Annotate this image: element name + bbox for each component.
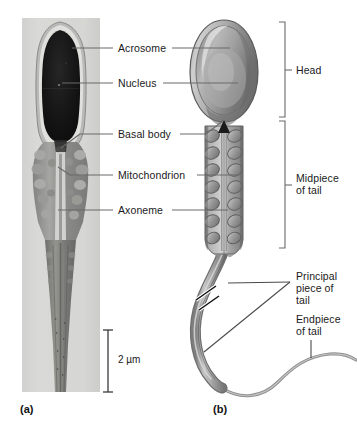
- principal-piece-of-tail-shape: [194, 250, 227, 388]
- scale-bar-label: 2 µm: [118, 354, 140, 365]
- bracket-head: [279, 22, 292, 117]
- label-axoneme: Axoneme: [118, 204, 163, 216]
- label-endpiece-of-tail: Endpiece of tail: [296, 313, 341, 337]
- brackets: [279, 22, 292, 248]
- scale-bar: [103, 330, 113, 392]
- label-mitochondrion: Mitochondrion: [118, 169, 185, 181]
- leader-principal-lower: [204, 282, 290, 352]
- label-midpiece-of-tail: Midpiece of tail: [296, 172, 339, 196]
- illustration-panel: [190, 20, 356, 396]
- midpiece-shape: [203, 126, 244, 257]
- endpiece-of-tail-shape: [222, 354, 356, 396]
- panel-letter-a: (a): [20, 403, 33, 415]
- head-shape: [190, 20, 258, 126]
- label-basal-body: Basal body: [118, 128, 171, 140]
- tail-leaders: [204, 282, 311, 358]
- label-principal-piece-of-tail: Principal piece of tail: [296, 270, 337, 306]
- leader-principal-upper: [228, 282, 290, 283]
- label-nucleus: Nucleus: [118, 77, 157, 89]
- label-acrosome: Acrosome: [118, 42, 166, 54]
- label-head: Head: [296, 64, 322, 76]
- micrograph-panel: [22, 18, 100, 392]
- bracket-midpiece: [279, 121, 292, 248]
- panel-letter-b: (b): [213, 403, 227, 415]
- sperm-structure-figure: Acrosome Nucleus Basal body Mitochondrio…: [0, 0, 357, 429]
